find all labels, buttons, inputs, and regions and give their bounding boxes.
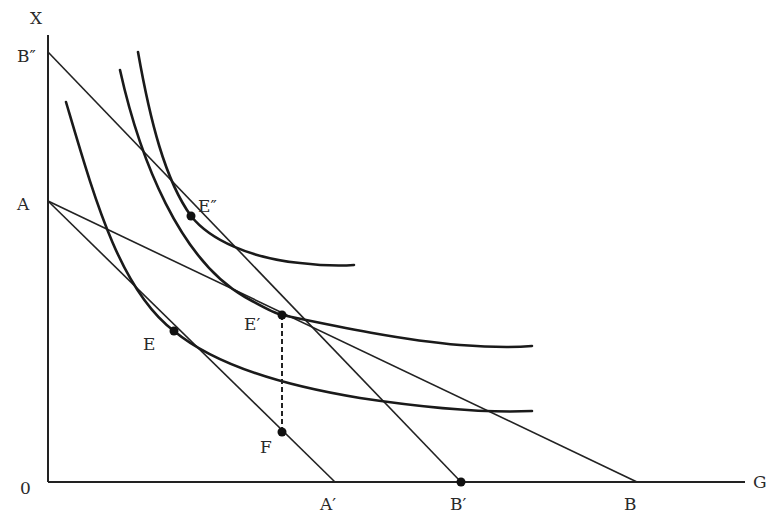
point-e-double-prime: [187, 212, 196, 221]
label-f: F: [260, 437, 272, 457]
x-axis-label: G: [753, 472, 767, 492]
label-e: E: [143, 334, 155, 354]
budget-line-a-b: [48, 201, 637, 482]
label-b-prime: B′: [450, 494, 466, 514]
label-a-prime: A′: [319, 494, 336, 514]
label-e-prime: E′: [244, 314, 260, 334]
label-a: A: [16, 194, 30, 214]
point-e: [170, 327, 179, 336]
indifference-curve-3: [138, 52, 354, 266]
y-axis-label: X: [30, 8, 43, 28]
label-e-double-prime: E″: [198, 196, 217, 216]
label-b-double-prime: B″: [17, 46, 36, 66]
point-b-prime: [457, 478, 466, 487]
label-b: B: [624, 494, 637, 514]
budget-line-b-double-prime-b-prime: [48, 52, 461, 482]
indifference-curve-1: [66, 102, 532, 412]
point-f: [278, 428, 287, 437]
budget-line-a-a-prime: [48, 201, 335, 482]
diagram-canvas: X G 0 B″ A A′ B′ B E E′ E″ F: [0, 0, 777, 525]
origin-label: 0: [20, 478, 31, 498]
indifference-curve-2: [120, 70, 532, 347]
point-e-prime: [278, 311, 287, 320]
